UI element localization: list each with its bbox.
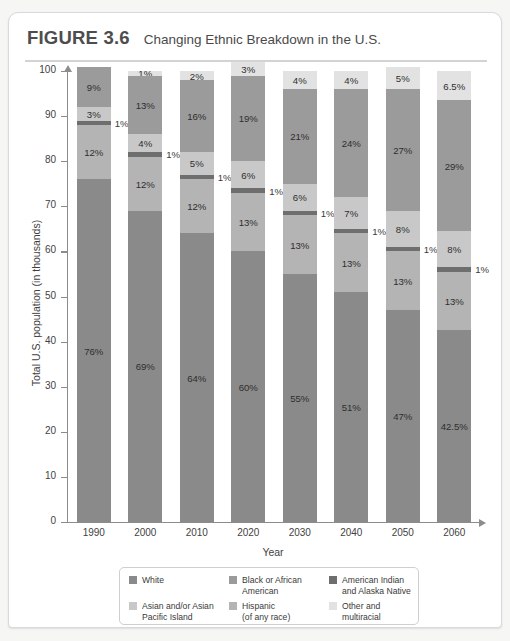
- bar-segment-label: 60%: [231, 381, 265, 392]
- bar-segment[interactable]: 13%: [231, 193, 265, 252]
- legend-item[interactable]: White: [129, 575, 229, 597]
- bar-segment[interactable]: 27%: [386, 89, 420, 211]
- bar-segment-label: 16%: [180, 111, 214, 122]
- bar-segment[interactable]: 8%: [437, 231, 471, 267]
- bar-segment-label: 1%: [218, 172, 232, 183]
- y-tick-label: 40: [45, 335, 56, 346]
- bar-segment-label: 1%: [424, 244, 438, 255]
- bar-segment[interactable]: 12%: [180, 179, 214, 233]
- bar-2030[interactable]: 4%21%6%1%13%55%: [283, 71, 317, 522]
- bar-segment[interactable]: 5%: [180, 152, 214, 175]
- legend-swatch-icon: [229, 602, 237, 610]
- bar-segment-label: 1%: [475, 264, 489, 275]
- y-tick-label: 50: [45, 290, 56, 301]
- bar-segment-label: 29%: [437, 160, 471, 171]
- bar-segment[interactable]: 47%: [386, 310, 420, 522]
- bar-segment[interactable]: 2%: [180, 71, 214, 80]
- bar-segment[interactable]: 12%: [128, 157, 162, 211]
- bar-segment-label: 27%: [386, 144, 420, 155]
- bar-segment-label: 1%: [269, 185, 283, 196]
- figure-page: FIGURE 3.6 Changing Ethnic Breakdown in …: [0, 0, 510, 641]
- legend-item[interactable]: Other and multiracial: [329, 601, 429, 623]
- legend-item[interactable]: Black or African American: [229, 575, 329, 597]
- bar-segment[interactable]: 64%: [180, 233, 214, 522]
- bar-segment[interactable]: 51%: [334, 292, 368, 522]
- legend-label: Asian and/or Asian Pacific Island: [142, 601, 214, 622]
- bar-segment-label: 21%: [283, 131, 317, 142]
- bar-segment-label: 6%: [231, 169, 265, 180]
- bar-segment[interactable]: 4%: [334, 71, 368, 89]
- bar-segment[interactable]: 12%: [77, 125, 111, 179]
- bar-segment[interactable]: 5%: [386, 67, 420, 90]
- bar-segment[interactable]: 16%: [180, 80, 214, 152]
- bar-segment[interactable]: 6%: [231, 161, 265, 188]
- bar-segment[interactable]: 6%: [283, 184, 317, 211]
- y-tick: 70: [61, 206, 68, 207]
- bar-segment[interactable]: 76%: [77, 179, 111, 522]
- bar-segment[interactable]: 3%: [231, 62, 265, 76]
- y-tick: 60: [61, 251, 68, 252]
- bar-2040[interactable]: 4%24%7%1%13%51%: [334, 71, 368, 522]
- bar-2010[interactable]: 2%16%5%1%12%64%: [180, 71, 214, 522]
- bar-segment[interactable]: 4%: [128, 134, 162, 152]
- x-tick-label: 2050: [386, 527, 420, 538]
- bar-segment[interactable]: 7%: [334, 197, 368, 229]
- bar-segment[interactable]: 13%: [334, 233, 368, 292]
- bar-segment-label: 1%: [321, 208, 335, 219]
- bar-1990[interactable]: 9%3%1%12%76%: [77, 67, 111, 522]
- bar-segment[interactable]: 55%: [283, 274, 317, 522]
- bar-segment[interactable]: 4%: [283, 71, 317, 89]
- legend-swatch-icon: [129, 576, 137, 584]
- bar-segment[interactable]: 42.5%: [437, 330, 471, 522]
- chart-plot-area: Total U.S. population (in thousands) 010…: [9, 65, 503, 565]
- bar-segment[interactable]: 29%: [437, 100, 471, 231]
- y-tick-label: 20: [45, 425, 56, 436]
- y-tick: 90: [61, 116, 68, 117]
- bar-segment-label: 76%: [77, 345, 111, 356]
- bar-segment[interactable]: 6.5%: [437, 71, 471, 100]
- legend-item[interactable]: Asian and/or Asian Pacific Island: [129, 601, 229, 623]
- bar-2000[interactable]: 1%13%4%1%12%69%: [128, 71, 162, 522]
- bar-segment-label: 3%: [77, 108, 111, 119]
- bar-segment-label: 5%: [180, 158, 214, 169]
- bar-segment[interactable]: 3%: [77, 107, 111, 121]
- bar-segment[interactable]: 9%: [77, 67, 111, 108]
- legend-swatch-icon: [329, 602, 337, 610]
- bar-segment[interactable]: 69%: [128, 211, 162, 522]
- bar-segment-label: 12%: [128, 178, 162, 189]
- bar-segment[interactable]: 24%: [334, 89, 368, 197]
- y-tick: 50: [61, 297, 68, 298]
- bar-segment[interactable]: 13%: [128, 76, 162, 135]
- bar-segment-label: 1%: [166, 149, 180, 160]
- figure-number: FIGURE 3.6: [27, 27, 130, 49]
- legend-swatch-icon: [229, 576, 237, 584]
- figure-title: Changing Ethnic Breakdown in the U.S.: [144, 32, 381, 47]
- bar-2050[interactable]: 5%27%8%1%13%47%: [386, 67, 420, 522]
- legend-label: Other and multiracial: [342, 601, 381, 622]
- legend-item[interactable]: Hispanic (of any race): [229, 601, 329, 623]
- bar-segment[interactable]: 21%: [283, 89, 317, 184]
- y-tick: 40: [61, 342, 68, 343]
- y-tick-label: 90: [45, 109, 56, 120]
- x-tick-label: 2010: [180, 527, 214, 538]
- figure-card: FIGURE 3.6 Changing Ethnic Breakdown in …: [8, 12, 502, 628]
- bar-segment-label: 13%: [128, 99, 162, 110]
- bar-2060[interactable]: 6.5%29%8%1%13%42.5%: [437, 71, 471, 522]
- legend-item[interactable]: American Indian and Alaska Native: [329, 575, 429, 597]
- legend-swatch-icon: [329, 576, 337, 584]
- bar-segment-label: 5%: [386, 72, 420, 83]
- bar-segment[interactable]: 13%: [386, 251, 420, 310]
- bar-segment-label: 13%: [334, 257, 368, 268]
- y-tick: 20: [61, 432, 68, 433]
- y-tick-label: 10: [45, 470, 56, 481]
- x-tick-label: 2040: [334, 527, 368, 538]
- bar-segment[interactable]: 19%: [231, 76, 265, 162]
- bar-segment[interactable]: 60%: [231, 251, 265, 522]
- bar-2020[interactable]: 3%19%6%1%13%60%: [231, 62, 265, 522]
- bar-segment[interactable]: 13%: [437, 272, 471, 331]
- bar-segment[interactable]: 13%: [283, 215, 317, 274]
- bar-segment-label: 13%: [283, 239, 317, 250]
- bar-segment[interactable]: 8%: [386, 211, 420, 247]
- x-axis-label: Year: [67, 546, 479, 558]
- y-tick-label: 100: [39, 64, 56, 75]
